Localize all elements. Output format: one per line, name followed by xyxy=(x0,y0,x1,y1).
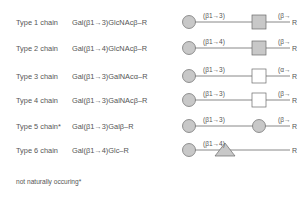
glcnac-square-icon xyxy=(252,15,266,29)
formula: Gal(β1→3)GalNAcβ–R xyxy=(72,96,147,105)
gal-circle-icon xyxy=(183,120,196,133)
glycan-diagram: (β1→3) (β→ R xyxy=(180,12,306,32)
link1-label: (β1→4) xyxy=(203,38,225,46)
r-label: R xyxy=(292,147,297,154)
chain-row-type-3: Type 3 chain Gal(β1→3)GalNAcα–R (β1→3) (… xyxy=(0,66,306,86)
link2-label: (β→ xyxy=(278,116,290,124)
link2-label: (β→ xyxy=(278,38,290,46)
link1-label: (β1→3) xyxy=(203,90,225,98)
chain-row-type-1: Type 1 chain Gal(β1→3)GlcNAcβ–R (β1→3) (… xyxy=(0,12,306,32)
gal-circle-icon xyxy=(253,120,266,133)
chain-row-type-2: Type 2 chain Gal(β1→4)GlcNAcβ–R (β1→4) (… xyxy=(0,38,306,58)
glycan-diagram: (β1→4) (β→ R xyxy=(180,38,306,58)
link1-label: (β1→4) xyxy=(203,140,225,148)
gal-circle-icon xyxy=(183,144,196,157)
gal-circle-icon xyxy=(183,42,196,55)
chain-row-type-4: Type 4 chain Gal(β1→3)GalNAcβ–R (β1→3) (… xyxy=(0,90,306,110)
link2-label: (β→ xyxy=(278,90,290,98)
link2-label: (α→ xyxy=(278,66,290,74)
formula: Gal(β1→3)GalNAcα–R xyxy=(72,72,147,81)
r-label: R xyxy=(292,97,297,104)
chain-row-type-5: Type 5 chain* Gal(β1→3)Galβ–R (β1→3) (β→… xyxy=(0,116,306,136)
glycan-diagram: (β1→3) (β→ R xyxy=(180,90,306,110)
galnac-square-open-icon xyxy=(252,93,266,107)
formula: Gal(β1→3)GlcNAcβ–R xyxy=(72,18,147,27)
glcnac-square-icon xyxy=(252,41,266,55)
gal-circle-icon xyxy=(183,70,196,83)
galnac-square-open-icon xyxy=(252,69,266,83)
glycan-diagram: (β1→3) (β→ R xyxy=(180,116,306,136)
chain-row-type-6: Type 6 chain Gal(β1→4)Glc–R (β1→4) R xyxy=(0,140,306,160)
type-label: Type 2 chain xyxy=(16,44,58,53)
type-label: Type 4 chain xyxy=(16,96,58,105)
link1-label: (β1→3) xyxy=(203,116,225,124)
formula: Gal(β1→4)GlcNAcβ–R xyxy=(72,44,147,53)
formula: Gal(β1→3)Galβ–R xyxy=(72,122,134,131)
link2-label: (β→ xyxy=(278,12,290,20)
link1-label: (β1→3) xyxy=(203,66,225,74)
footnote: not naturally occuring* xyxy=(16,178,81,185)
r-label: R xyxy=(292,45,297,52)
r-label: R xyxy=(292,73,297,80)
r-label: R xyxy=(292,19,297,26)
type-label: Type 1 chain xyxy=(16,18,58,27)
r-label: R xyxy=(292,123,297,130)
link1-label: (β1→3) xyxy=(203,12,225,20)
gal-circle-icon xyxy=(183,16,196,29)
type-label: Type 5 chain* xyxy=(16,122,61,131)
glycan-diagram: (β1→4) R xyxy=(180,140,306,160)
type-label: Type 3 chain xyxy=(16,72,58,81)
glycan-diagram: (β1→3) (α→ R xyxy=(180,66,306,86)
gal-circle-icon xyxy=(183,94,196,107)
formula: Gal(β1→4)Glc–R xyxy=(72,146,129,155)
type-label: Type 6 chain xyxy=(16,146,58,155)
